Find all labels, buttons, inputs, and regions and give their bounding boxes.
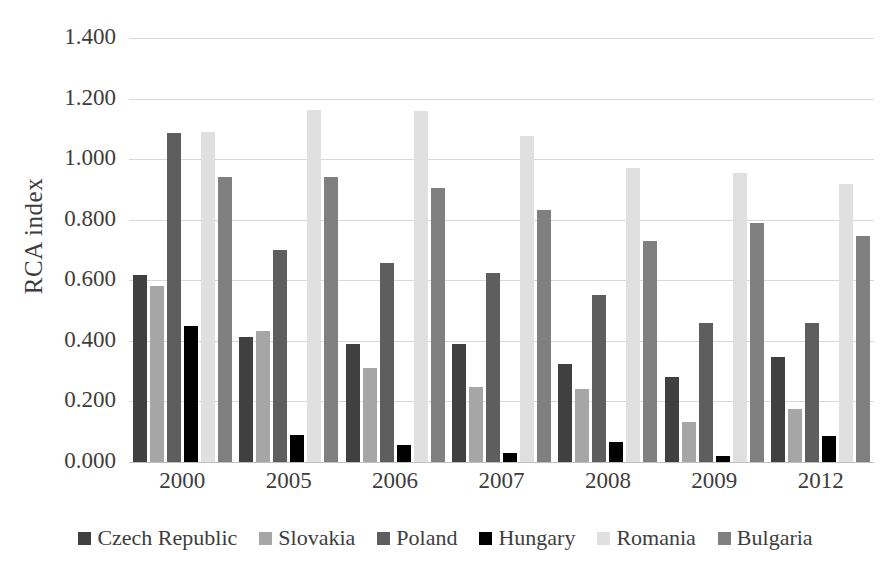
bar-group-2007 — [448, 38, 554, 462]
bar-poland-2009[interactable] — [699, 323, 713, 462]
bar-group-2005 — [235, 38, 341, 462]
bar-bulgaria-2005[interactable] — [324, 177, 338, 462]
bar-bulgaria-2012[interactable] — [856, 236, 870, 462]
bar-hungary-2007[interactable] — [503, 453, 517, 462]
legend-item-romania[interactable]: Romania — [597, 525, 695, 551]
bar-bulgaria-2009[interactable] — [750, 223, 764, 462]
bar-bulgaria-2006[interactable] — [431, 188, 445, 462]
bars-wrap — [665, 38, 764, 462]
bars-wrap — [346, 38, 445, 462]
legend-swatch-icon — [597, 532, 610, 545]
legend-item-bulgaria[interactable]: Bulgaria — [718, 525, 813, 551]
bar-poland-2008[interactable] — [592, 295, 606, 462]
y-tick-label: 0.400 — [20, 327, 116, 353]
bar-czech-republic-2007[interactable] — [452, 344, 466, 462]
legend-label: Hungary — [498, 525, 575, 551]
y-tick-label: 1.200 — [20, 85, 116, 111]
legend-item-hungary[interactable]: Hungary — [479, 525, 575, 551]
bar-hungary-2000[interactable] — [184, 326, 198, 462]
bar-poland-2005[interactable] — [273, 250, 287, 462]
bar-romania-2005[interactable] — [307, 110, 321, 462]
legend-swatch-icon — [377, 532, 390, 545]
x-axis-tick-labels: 2000200520062007200820092012 — [129, 468, 874, 494]
bar-hungary-2005[interactable] — [290, 435, 304, 462]
legend-label: Bulgaria — [737, 525, 813, 551]
legend-swatch-icon — [259, 532, 272, 545]
x-tick-label-2005: 2005 — [235, 468, 341, 494]
bar-slovakia-2006[interactable] — [363, 368, 377, 462]
bar-group-2000 — [129, 38, 235, 462]
y-tick-label: 1.000 — [20, 145, 116, 171]
bars-wrap — [133, 38, 232, 462]
y-tick-label: 0.200 — [20, 387, 116, 413]
legend-swatch-icon — [718, 532, 731, 545]
bar-slovakia-2005[interactable] — [256, 331, 270, 462]
bar-bulgaria-2000[interactable] — [218, 177, 232, 462]
legend: Czech RepublicSlovakiaPolandHungaryRoman… — [0, 525, 891, 551]
x-tick-label-2008: 2008 — [555, 468, 661, 494]
x-tick-label-2006: 2006 — [342, 468, 448, 494]
bar-romania-2012[interactable] — [839, 184, 853, 462]
bar-hungary-2012[interactable] — [822, 436, 836, 462]
bar-romania-2007[interactable] — [520, 136, 534, 462]
bars-wrap — [771, 38, 870, 462]
bar-romania-2008[interactable] — [626, 168, 640, 462]
bar-czech-republic-2012[interactable] — [771, 357, 785, 462]
legend-label: Poland — [396, 525, 457, 551]
rca-index-bar-chart: RCA index 1.4001.2001.0000.8000.6000.400… — [0, 0, 891, 572]
bar-poland-2012[interactable] — [805, 323, 819, 462]
y-tick-label: 0.000 — [20, 448, 116, 474]
bars-wrap — [452, 38, 551, 462]
bar-czech-republic-2005[interactable] — [239, 337, 253, 462]
y-tick-label: 1.400 — [20, 24, 116, 50]
bars-wrap — [239, 38, 338, 462]
bar-slovakia-2000[interactable] — [150, 286, 164, 462]
legend-label: Slovakia — [278, 525, 355, 551]
bar-poland-2007[interactable] — [486, 273, 500, 462]
bar-hungary-2006[interactable] — [397, 445, 411, 462]
gridline — [129, 462, 874, 463]
bar-slovakia-2009[interactable] — [682, 422, 696, 462]
legend-swatch-icon — [479, 532, 492, 545]
bars-wrap — [558, 38, 657, 462]
y-tick-label: 0.600 — [20, 266, 116, 292]
x-tick-label-2009: 2009 — [661, 468, 767, 494]
bar-bulgaria-2007[interactable] — [537, 210, 551, 462]
legend-label: Romania — [616, 525, 695, 551]
bar-romania-2000[interactable] — [201, 132, 215, 462]
bar-group-2008 — [555, 38, 661, 462]
legend-item-czech-republic[interactable]: Czech Republic — [78, 525, 237, 551]
bar-group-2009 — [661, 38, 767, 462]
x-tick-label-2007: 2007 — [448, 468, 554, 494]
bar-czech-republic-2006[interactable] — [346, 344, 360, 462]
bar-romania-2006[interactable] — [414, 111, 428, 462]
legend-label: Czech Republic — [97, 525, 237, 551]
bar-group-2006 — [342, 38, 448, 462]
bar-romania-2009[interactable] — [733, 173, 747, 462]
plot-area — [129, 38, 874, 462]
bar-czech-republic-2008[interactable] — [558, 364, 572, 462]
legend-swatch-icon — [78, 532, 91, 545]
bar-hungary-2009[interactable] — [716, 456, 730, 462]
legend-item-slovakia[interactable]: Slovakia — [259, 525, 355, 551]
bar-poland-2000[interactable] — [167, 133, 181, 462]
bar-slovakia-2007[interactable] — [469, 387, 483, 462]
bar-bulgaria-2008[interactable] — [643, 241, 657, 462]
bar-hungary-2008[interactable] — [609, 442, 623, 462]
x-tick-label-2012: 2012 — [768, 468, 874, 494]
bar-poland-2006[interactable] — [380, 263, 394, 462]
bar-czech-republic-2000[interactable] — [133, 275, 147, 462]
bar-czech-republic-2009[interactable] — [665, 377, 679, 462]
y-tick-label: 0.800 — [20, 206, 116, 232]
legend-item-poland[interactable]: Poland — [377, 525, 457, 551]
bar-group-2012 — [768, 38, 874, 462]
bar-groups — [129, 38, 874, 462]
bar-slovakia-2012[interactable] — [788, 409, 802, 462]
x-tick-label-2000: 2000 — [129, 468, 235, 494]
bar-slovakia-2008[interactable] — [575, 389, 589, 462]
